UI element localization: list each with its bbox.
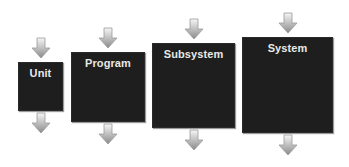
stage-box-program: Program bbox=[71, 52, 145, 122]
input-arrow-icon bbox=[97, 27, 119, 49]
stage-label: Unit bbox=[18, 67, 63, 79]
stage-box-system: System bbox=[242, 37, 333, 133]
stage-box-subsystem: Subsystem bbox=[152, 43, 235, 128]
output-arrow-icon bbox=[183, 129, 205, 151]
output-arrow-icon bbox=[277, 134, 299, 156]
output-arrow-icon bbox=[97, 123, 119, 145]
stage-label: Program bbox=[71, 57, 145, 69]
input-arrow-icon bbox=[277, 12, 299, 34]
stage-label: Subsystem bbox=[152, 48, 235, 60]
input-arrow-icon bbox=[183, 18, 205, 40]
stage-label: System bbox=[242, 42, 333, 54]
input-arrow-icon bbox=[30, 37, 52, 59]
output-arrow-icon bbox=[30, 112, 52, 134]
stage-box-unit: Unit bbox=[18, 62, 63, 111]
